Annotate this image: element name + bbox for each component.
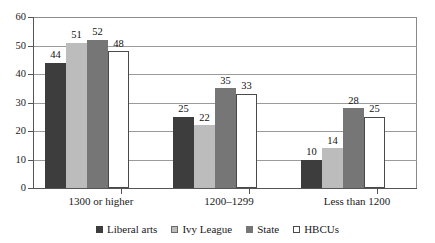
plot-area: 445152482522353310142825 — [33, 17, 417, 188]
x-axis-tick-mark — [377, 188, 378, 194]
bar-hbcu: 25 — [364, 17, 385, 188]
bar-rect — [194, 125, 215, 188]
bar-value-label: 22 — [199, 113, 210, 124]
y-axis-tick-label: 20 — [0, 126, 26, 137]
x-axis-category-label: Less than 1200 — [324, 196, 391, 207]
bar-value-label: 33 — [241, 81, 252, 92]
x-axis-tick-mark — [121, 188, 122, 194]
bar-liberal: 44 — [45, 17, 66, 188]
bar-rect — [236, 94, 257, 188]
x-axis-tick-mark — [249, 188, 250, 194]
bar-state: 28 — [343, 17, 364, 188]
bar-rect — [173, 117, 194, 188]
bar-ivy: 14 — [322, 17, 343, 188]
bar-rect — [343, 108, 364, 188]
bar-value-label: 10 — [306, 147, 317, 158]
bar-group: 10142825 — [301, 17, 385, 188]
bar-value-label: 28 — [348, 96, 359, 107]
bar-rect — [45, 63, 66, 188]
x-axis-category-label: 1200–1299 — [204, 196, 254, 207]
bar-state: 52 — [87, 17, 108, 188]
x-axis-line — [33, 188, 417, 189]
bar-group: 25223533 — [173, 17, 257, 188]
bar-rect — [364, 117, 385, 188]
y-axis-line — [33, 17, 34, 189]
bar-rect — [66, 43, 87, 188]
bar-value-label: 48 — [113, 39, 124, 50]
bar-value-label: 35 — [220, 76, 231, 87]
bar-liberal: 25 — [173, 17, 194, 188]
y-axis-tick-label: 50 — [0, 41, 26, 52]
y-axis-tick-label: 40 — [0, 69, 26, 80]
bar-group: 44515248 — [45, 17, 129, 188]
bar-rect — [322, 148, 343, 188]
bar-hbcu: 48 — [108, 17, 129, 188]
x-axis-category-label: 1300 or higher — [69, 196, 134, 207]
legend-item-ivy[interactable]: Ivy League — [171, 224, 232, 235]
y-axis-tick-label: 60 — [0, 12, 26, 23]
y-axis-tick-label: 0 — [0, 183, 26, 194]
bar-value-label: 25 — [369, 104, 380, 115]
legend-swatch-icon — [96, 226, 103, 233]
bar-ivy: 51 — [66, 17, 87, 188]
bar-state: 35 — [215, 17, 236, 188]
legend-swatch-icon — [246, 226, 253, 233]
bar-rect — [108, 51, 129, 188]
chart-legend: Liberal artsIvy LeagueStateHBCUs — [0, 224, 435, 235]
legend-item-hbcu[interactable]: HBCUs — [293, 224, 339, 235]
legend-label: State — [257, 224, 279, 235]
legend-item-liberal[interactable]: Liberal arts — [96, 224, 157, 235]
bar-liberal: 10 — [301, 17, 322, 188]
legend-swatch-icon — [293, 226, 300, 233]
bar-value-label: 52 — [92, 27, 103, 38]
bar-value-label: 44 — [50, 50, 61, 61]
legend-label: Liberal arts — [107, 224, 157, 235]
bar-value-label: 51 — [71, 30, 82, 41]
bar-chart: 0102030405060 445152482522353310142825 1… — [0, 0, 435, 243]
legend-label: Ivy League — [182, 224, 232, 235]
bar-rect — [215, 88, 236, 188]
bar-value-label: 25 — [178, 104, 189, 115]
legend-label: HBCUs — [304, 224, 339, 235]
bar-rect — [301, 160, 322, 189]
legend-swatch-icon — [171, 226, 178, 233]
bar-value-label: 14 — [327, 136, 338, 147]
bar-ivy: 22 — [194, 17, 215, 188]
legend-item-state[interactable]: State — [246, 224, 279, 235]
bar-hbcu: 33 — [236, 17, 257, 188]
y-axis-tick-label: 30 — [0, 98, 26, 109]
bar-rect — [87, 40, 108, 188]
y-axis-tick-label: 10 — [0, 155, 26, 166]
